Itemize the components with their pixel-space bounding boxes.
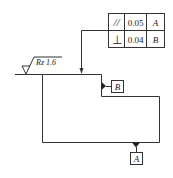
datum-triangle-icon [132, 143, 140, 148]
surface-finish-symbol: Rz 1.6 [15, 57, 62, 75]
roughness-label: Rz 1.6 [35, 58, 56, 67]
datum-ref-1: A [152, 18, 159, 28]
leader-arrow-icon [80, 68, 84, 74]
drawing-canvas: // 0.05 A ⊥ 0.04 B Rz 1.6 B A [0, 0, 173, 178]
datum-a-label: A [133, 154, 140, 164]
part-outline [43, 75, 160, 143]
leader-line [80, 31, 109, 75]
datum-b: B [102, 81, 124, 93]
perpendicularity-icon: ⊥ [112, 33, 122, 47]
tolerance-value-1: 0.05 [128, 18, 144, 28]
datum-ref-2: B [153, 35, 159, 45]
parallelism-icon: // [112, 16, 120, 28]
tolerance-value-2: 0.04 [128, 35, 144, 45]
datum-a: A [131, 143, 143, 165]
datum-b-label: B [115, 82, 121, 92]
feature-control-frame: // 0.05 A ⊥ 0.04 B [109, 14, 165, 48]
datum-triangle-icon [102, 82, 107, 90]
